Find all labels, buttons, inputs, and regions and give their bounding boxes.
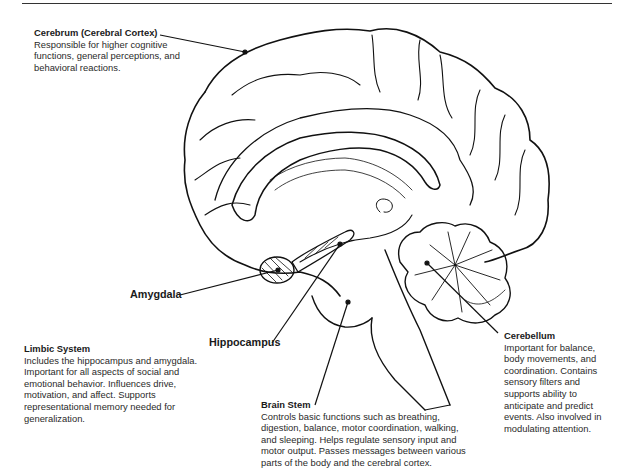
- cerebrum-description: Responsible for higher cognitive functio…: [34, 39, 180, 73]
- limbic-description: Includes the hippocampus and amygdala. I…: [24, 355, 197, 424]
- cerebrum-title: Cerebrum (Cerebral Cortex): [34, 27, 184, 39]
- brainstem-leader: [315, 302, 348, 405]
- amygdala-tag: Amygdala: [130, 288, 182, 300]
- hippocampus-shape: [292, 230, 354, 272]
- cerebrum-outline: [205, 29, 549, 262]
- brainstem-back: [385, 250, 450, 405]
- limbic-label: Limbic System Includes the hippocampus a…: [24, 343, 199, 424]
- limbic-title: Limbic System: [24, 343, 199, 355]
- brainstem-description: Controls basic functions such as breathi…: [261, 411, 466, 468]
- cerebellum-label: Cerebellum Important for balance, body m…: [504, 330, 614, 434]
- hippocampus-tag: Hippocampus: [209, 336, 280, 348]
- arbor-vitae: [415, 232, 500, 312]
- cerebellum-outline: [399, 223, 511, 323]
- cerebellum-title: Cerebellum: [504, 330, 614, 342]
- brainstem-title: Brain Stem: [261, 399, 476, 411]
- brainstem-label: Brain Stem Controls basic functions such…: [261, 399, 476, 469]
- cerebrum-label: Cerebrum (Cerebral Cortex) Responsible f…: [34, 27, 184, 73]
- amygdala-leader: [180, 270, 278, 295]
- brainstem-front: [371, 318, 425, 410]
- cerebellum-description: Important for balance, body movements, a…: [504, 342, 601, 434]
